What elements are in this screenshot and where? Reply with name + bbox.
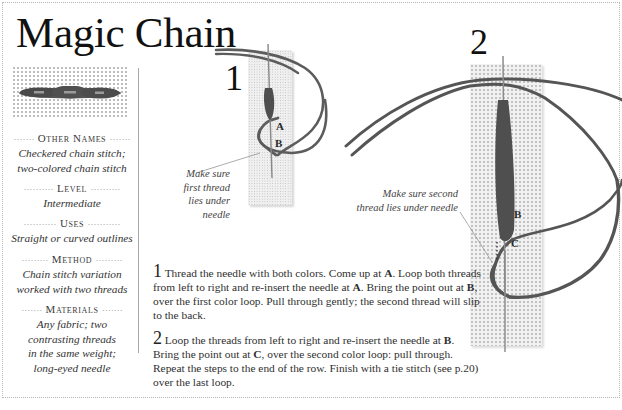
- page-border-top: [2, 2, 620, 3]
- illustration-1-canvas: [248, 50, 292, 205]
- info-materials: ······· Materials ······· Any fabric; tw…: [4, 302, 140, 375]
- page-border-right: [619, 2, 620, 398]
- info-uses: ··········· Uses ··········· Straight or…: [4, 216, 140, 246]
- info-body: contrasting threads: [4, 332, 140, 347]
- page-border-bottom: [2, 397, 620, 398]
- callout-2: Make sure second thread lies under needl…: [340, 187, 458, 214]
- info-method: ········· Method ········· Chain stitch …: [4, 252, 140, 296]
- info-heading: Uses: [60, 217, 84, 229]
- illustration-1-step-number: 1: [225, 58, 243, 98]
- info-body: Intermediate: [4, 196, 140, 211]
- info-body: Straight or curved outlines: [4, 231, 140, 246]
- stitch-sample-image: [12, 66, 127, 118]
- info-heading: Method: [52, 253, 93, 265]
- info-body: two-colored chain stitch: [4, 161, 140, 176]
- point-label-a: A: [276, 120, 284, 132]
- info-heading: Other Names: [38, 132, 106, 144]
- point-label-b: B: [514, 208, 521, 220]
- instruction-step-1: 1 Thread the needle with both colors. Co…: [153, 264, 483, 322]
- info-body: Checkered chain stitch;: [4, 146, 140, 161]
- info-level: ·········· Level ·········· Intermediate: [4, 181, 140, 211]
- page: Magic Chain ······· Other Names ······· …: [0, 0, 622, 410]
- info-body: Any fabric; two: [4, 317, 140, 332]
- info-body: in the same weight;: [4, 346, 140, 361]
- page-border-left: [2, 2, 3, 398]
- page-title: Magic Chain: [16, 8, 236, 58]
- point-label-c: C: [511, 237, 519, 249]
- info-heading: Level: [57, 182, 87, 194]
- callout-1: Make sure first thread lies under needle: [150, 167, 230, 221]
- info-body: long-eyed needle: [4, 361, 140, 376]
- point-label-b: B: [275, 137, 282, 149]
- illustration-2-step-number: 2: [470, 22, 488, 62]
- chain-stitch-icon: [18, 86, 122, 100]
- info-heading: Materials: [46, 303, 99, 315]
- info-body: worked with two threads: [4, 282, 140, 297]
- instruction-step-2: 2 Loop the threads from left to right an…: [153, 331, 483, 389]
- instruction-number: 2: [153, 328, 162, 348]
- info-body: Chain stitch variation: [4, 267, 140, 282]
- info-other-names: ······· Other Names ······· Checkered ch…: [4, 131, 140, 175]
- instruction-number: 1: [153, 261, 162, 281]
